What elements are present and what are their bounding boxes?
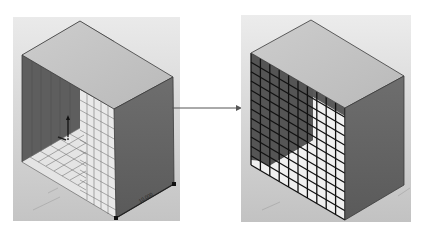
right-panel: [241, 15, 411, 222]
transition-arrow: [172, 105, 242, 111]
diagram-canvas: 10.000: [0, 0, 422, 235]
left-panel: 10.000: [13, 17, 180, 221]
